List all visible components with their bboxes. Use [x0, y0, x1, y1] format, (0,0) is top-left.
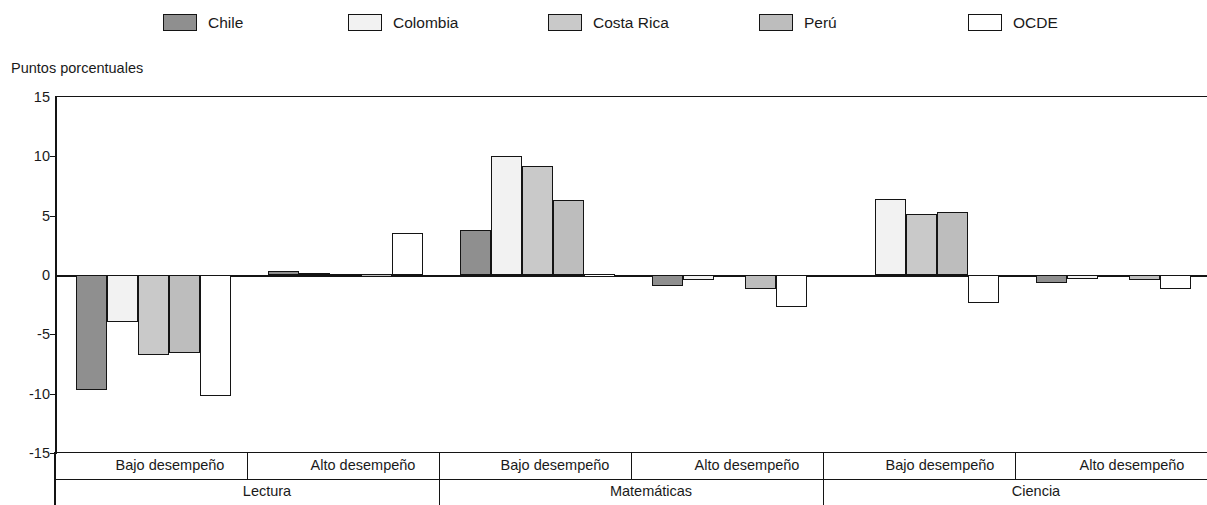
axis-left-border — [54, 452, 56, 505]
perf-group-label: Bajo desempeño — [80, 457, 260, 473]
subject-group-label: Lectura — [167, 483, 367, 499]
subject-group-label: Matemáticas — [551, 483, 751, 499]
bar-ocde — [1160, 275, 1191, 289]
bar-chile — [1036, 275, 1067, 283]
bar-chile — [844, 275, 875, 277]
bar-chile — [76, 275, 107, 390]
bar-ocde — [392, 233, 423, 275]
bar-per- — [361, 274, 392, 276]
bar-chile — [460, 230, 491, 275]
y-tick-mark — [50, 334, 57, 335]
category-axis: Bajo desempeñoAlto desempeñoBajo desempe… — [55, 452, 1207, 505]
bar-colombia — [107, 275, 138, 322]
bar-chile — [652, 275, 683, 286]
bar-costa-rica — [906, 214, 937, 275]
axis-separator — [439, 452, 440, 505]
y-tick-mark — [50, 216, 57, 217]
bar-costa-rica — [714, 275, 745, 277]
bar-colombia — [1067, 275, 1098, 279]
bar-chile — [268, 271, 299, 275]
bar-ocde — [584, 274, 615, 276]
y-tick-mark — [50, 394, 57, 395]
plot-frame: 151050-5-10-15 — [55, 96, 1207, 452]
bar-per- — [745, 275, 776, 289]
perf-group-label: Alto desempeño — [657, 457, 837, 473]
perf-group-label: Bajo desempeño — [850, 457, 1030, 473]
y-tick-label: 0 — [6, 267, 50, 283]
bar-ocde — [200, 275, 231, 396]
y-tick-label: -15 — [6, 445, 50, 461]
perf-group-label: Bajo desempeño — [465, 457, 645, 473]
chart-plot-area: 151050-5-10-15 — [0, 0, 1207, 505]
y-tick-label: -5 — [6, 326, 50, 342]
bar-colombia — [299, 273, 330, 275]
y-tick-label: 10 — [6, 148, 50, 164]
y-tick-label: -10 — [6, 386, 50, 402]
bar-ocde — [968, 275, 999, 303]
subject-group-label: Ciencia — [936, 483, 1136, 499]
y-tick-label: 5 — [6, 208, 50, 224]
bar-per- — [553, 200, 584, 275]
bar-ocde — [776, 275, 807, 307]
bar-colombia — [683, 275, 714, 280]
bar-costa-rica — [138, 275, 169, 355]
perf-group-label: Alto desempeño — [1042, 457, 1207, 473]
bar-costa-rica — [522, 166, 553, 275]
bar-per- — [937, 212, 968, 275]
bar-costa-rica — [330, 274, 361, 276]
bar-per- — [1129, 275, 1160, 280]
perf-group-label: Alto desempeño — [273, 457, 453, 473]
axis-line-mid — [55, 479, 1207, 480]
bar-colombia — [491, 156, 522, 275]
axis-separator — [823, 452, 824, 505]
axis-separator — [247, 452, 248, 479]
y-tick-label: 15 — [6, 89, 50, 105]
bar-per- — [169, 275, 200, 353]
axis-separator — [631, 452, 632, 479]
bar-costa-rica — [1098, 275, 1129, 277]
bar-colombia — [875, 199, 906, 275]
y-tick-mark — [50, 156, 57, 157]
axis-separator — [1015, 452, 1016, 479]
